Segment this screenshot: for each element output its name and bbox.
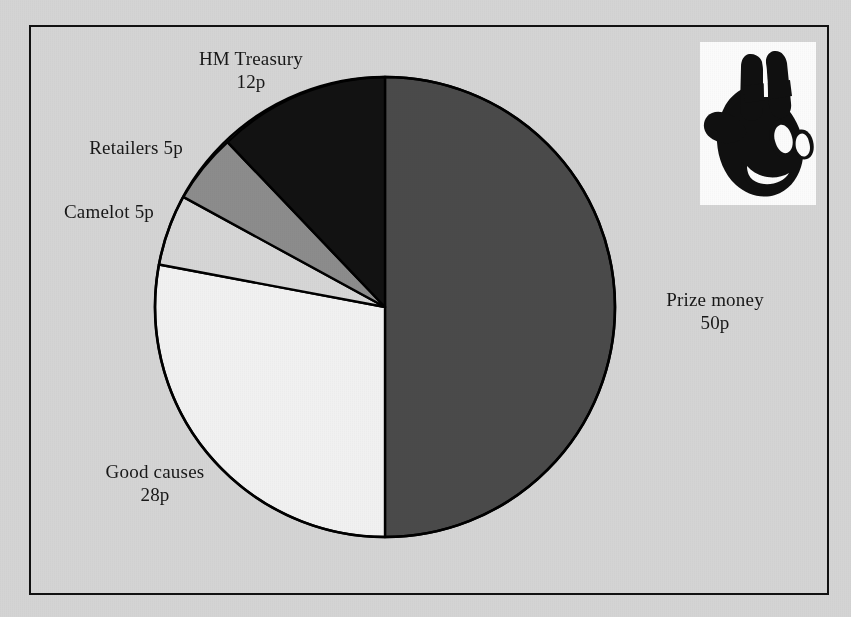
slice-label-retailers-name: Retailers bbox=[89, 137, 163, 158]
slice-label-good-causes-value: 28p bbox=[65, 483, 245, 506]
slice-label-camelot-value: 5p bbox=[135, 201, 154, 222]
slice-label-good-causes-name: Good causes bbox=[65, 460, 245, 483]
slice-label-good-causes: Good causes 28p bbox=[65, 460, 245, 506]
slice-label-retailers-value: 5p bbox=[163, 137, 182, 158]
slice-label-hm-treasury: HM Treasury 12p bbox=[166, 47, 336, 93]
slice-label-camelot-name: Camelot bbox=[64, 201, 135, 222]
pie-chart-figure: HM Treasury 12p Retailers 5p Camelot 5p … bbox=[0, 0, 851, 617]
pie-slice-prize-money[interactable] bbox=[385, 77, 615, 537]
slice-label-prize-money-name: Prize money bbox=[630, 288, 800, 311]
slice-label-retailers: Retailers 5p bbox=[56, 136, 216, 159]
slice-label-camelot: Camelot 5p bbox=[29, 200, 189, 223]
national-lottery-logo bbox=[700, 42, 816, 205]
crossed-fingers-icon bbox=[700, 42, 816, 205]
slice-label-hm-treasury-name: HM Treasury bbox=[166, 47, 336, 70]
slice-label-hm-treasury-value: 12p bbox=[166, 70, 336, 93]
slice-label-prize-money-value: 50p bbox=[630, 311, 800, 334]
slice-label-prize-money: Prize money 50p bbox=[630, 288, 800, 334]
